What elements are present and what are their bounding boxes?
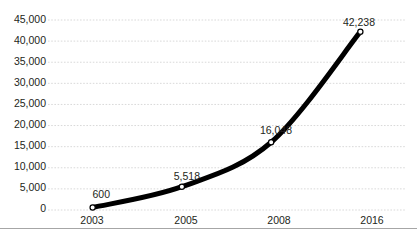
chart-container: 45,00040,00035,00030,00025,00020,00015,0…: [0, 0, 417, 236]
data-point-labels: 6005,51816,04842,238: [0, 0, 417, 236]
data-point-value-label: 600: [92, 189, 110, 200]
data-point-value-label: 42,238: [343, 17, 375, 28]
data-point-value-label: 5,518: [174, 171, 200, 182]
bottom-divider-rule: [0, 228, 417, 229]
data-point-value-label: 16,048: [260, 125, 292, 136]
